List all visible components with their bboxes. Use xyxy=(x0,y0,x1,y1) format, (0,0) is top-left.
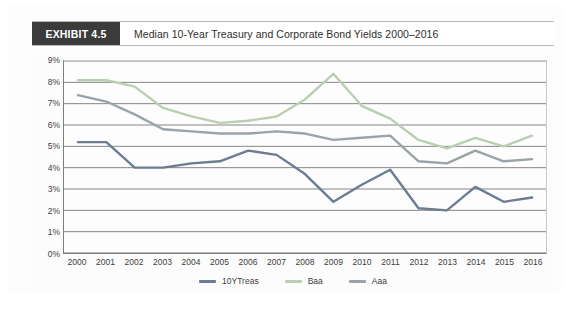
x-axis-tick-labels: 2000200120022003200420052006200720082009… xyxy=(63,257,547,273)
series-line-baa xyxy=(78,74,532,149)
plot-area xyxy=(63,60,547,254)
y-axis-tick: 0% xyxy=(32,249,60,259)
x-axis-tick: 2013 xyxy=(438,257,457,267)
legend-swatch-icon xyxy=(199,280,216,283)
series-line-10ytreas xyxy=(78,142,532,210)
chart-container: 0%1%2%3%4%5%6%7%8%9% 2000200120022003200… xyxy=(32,54,554,294)
series-line-aaa xyxy=(78,95,532,163)
plot-wrapper: 0%1%2%3%4%5%6%7%8%9% 2000200120022003200… xyxy=(32,54,554,294)
legend-label: 10YTreas xyxy=(222,276,259,286)
legend-swatch-icon xyxy=(349,280,366,283)
x-axis-tick: 2015 xyxy=(495,257,514,267)
legend-swatch-icon xyxy=(285,280,302,283)
x-axis-tick: 2002 xyxy=(125,257,144,267)
x-axis-tick: 2000 xyxy=(68,257,87,267)
legend-item[interactable]: 10YTreas xyxy=(199,276,259,286)
exhibit-badge: EXHIBIT 4.5 xyxy=(32,22,120,45)
x-axis-tick: 2008 xyxy=(296,257,315,267)
x-axis-tick: 2001 xyxy=(96,257,115,267)
x-axis-tick: 2004 xyxy=(182,257,201,267)
x-axis-tick: 2009 xyxy=(324,257,343,267)
y-axis-tick: 5% xyxy=(32,141,60,151)
x-axis-tick: 2011 xyxy=(381,257,399,267)
y-axis-tick: 6% xyxy=(32,120,60,130)
y-axis-tick: 1% xyxy=(32,227,60,237)
legend-item[interactable]: Aaa xyxy=(349,276,387,286)
x-axis-tick: 2003 xyxy=(153,257,172,267)
x-axis-tick: 2007 xyxy=(267,257,286,267)
exhibit-header: EXHIBIT 4.5 Median 10-Year Treasury and … xyxy=(32,21,554,46)
legend-item[interactable]: Baa xyxy=(285,276,323,286)
y-axis-tick: 7% xyxy=(32,98,60,108)
legend-label: Aaa xyxy=(372,276,387,286)
x-axis-tick: 2006 xyxy=(239,257,258,267)
y-axis-tick: 4% xyxy=(32,163,60,173)
legend-label: Baa xyxy=(308,276,323,286)
exhibit-root: EXHIBIT 4.5 Median 10-Year Treasury and … xyxy=(0,0,570,309)
x-axis-tick: 2010 xyxy=(353,257,372,267)
x-axis-tick: 2005 xyxy=(210,257,229,267)
y-axis-tick: 3% xyxy=(32,184,60,194)
y-axis-tick: 2% xyxy=(32,206,60,216)
x-axis-tick: 2012 xyxy=(410,257,429,267)
chart-legend: 10YTreasBaaAaa xyxy=(32,276,554,286)
chart-plot-svg xyxy=(64,61,546,253)
x-axis-tick: 2014 xyxy=(467,257,486,267)
exhibit-panel: EXHIBIT 4.5 Median 10-Year Treasury and … xyxy=(8,6,562,294)
x-axis-tick: 2016 xyxy=(524,257,543,267)
y-axis-tick: 9% xyxy=(32,55,60,65)
y-axis-tick-labels: 0%1%2%3%4%5%6%7%8%9% xyxy=(32,54,60,259)
exhibit-title: Median 10-Year Treasury and Corporate Bo… xyxy=(120,22,554,45)
y-axis-tick: 8% xyxy=(32,77,60,87)
